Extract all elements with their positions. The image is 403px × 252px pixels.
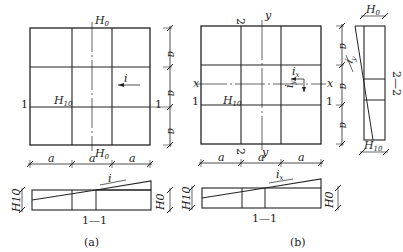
svg-text:H10: H10 — [53, 94, 73, 108]
svg-text:ix: ix — [292, 65, 300, 79]
svg-text:1: 1 — [192, 95, 199, 108]
svg-text:H10: H10 — [180, 186, 193, 211]
svg-text:1: 1 — [326, 95, 333, 108]
svg-text:a: a — [165, 128, 178, 135]
svg-text:H0: H0 — [154, 193, 167, 211]
svg-text:a: a — [129, 152, 136, 165]
svg-text:a: a — [337, 122, 350, 129]
svg-text:ix: ix — [276, 168, 284, 182]
figure-a — [19, 22, 173, 213]
svg-text:i: i — [124, 72, 128, 85]
svg-text:a: a — [165, 51, 178, 58]
slope-y-arrow-icon — [302, 87, 306, 92]
section-1-1-a — [32, 190, 151, 210]
figure-b — [189, 13, 389, 211]
roof-drainage-diagram: H0 H0 H10 i 1 1 a a a a a a i H10 H0 1—1… — [0, 0, 403, 252]
svg-text:1: 1 — [21, 98, 28, 111]
svg-text:a: a — [337, 83, 350, 90]
svg-text:iy: iy — [343, 53, 359, 66]
section-1-1-b — [202, 188, 321, 208]
svg-text:H10: H10 — [222, 94, 242, 108]
svg-text:a: a — [48, 152, 55, 165]
svg-text:H10: H10 — [10, 188, 23, 213]
svg-text:a: a — [258, 151, 265, 164]
section-2-2 — [364, 26, 385, 140]
figure-b-labels: y y x x 2 2 1 1 H10 ix iy iy a a a a a a… — [180, 3, 403, 249]
svg-text:H0: H0 — [365, 3, 381, 17]
svg-text:y: y — [264, 9, 272, 22]
svg-text:i: i — [108, 172, 112, 185]
svg-text:x: x — [193, 77, 200, 90]
svg-text:1—1: 1—1 — [252, 212, 277, 225]
svg-text:2: 2 — [234, 148, 247, 155]
svg-text:x: x — [327, 77, 334, 90]
plan-outline-b — [201, 26, 321, 144]
svg-text:H10: H10 — [363, 139, 383, 153]
svg-text:H0: H0 — [94, 14, 110, 28]
svg-text:1—1: 1—1 — [82, 214, 107, 227]
svg-text:a: a — [89, 152, 96, 165]
svg-text:(b): (b) — [290, 236, 306, 249]
plan-outline-a — [30, 28, 150, 145]
svg-text:a: a — [337, 43, 350, 50]
svg-text:H0: H0 — [94, 147, 110, 161]
figure-a-labels: H0 H0 H10 i 1 1 a a a a a a i H10 H0 1—1… — [10, 14, 178, 249]
svg-text:a: a — [165, 90, 178, 97]
svg-text:1: 1 — [155, 98, 162, 111]
svg-text:2—2: 2—2 — [390, 71, 403, 96]
svg-text:H0: H0 — [323, 191, 336, 209]
svg-text:a: a — [218, 151, 225, 164]
svg-text:2: 2 — [234, 18, 247, 25]
svg-text:(a): (a) — [84, 236, 99, 249]
svg-text:a: a — [298, 151, 305, 164]
